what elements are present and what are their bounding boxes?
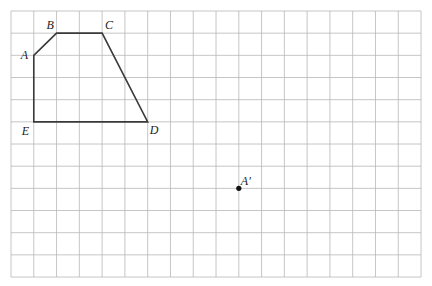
vertex-label-d: D <box>149 123 159 137</box>
grid-diagram: ABCDE A′ <box>0 0 432 286</box>
diagram-canvas: ABCDE A′ <box>0 0 432 286</box>
vertex-label-e: E <box>21 124 30 138</box>
vertex-label-a: A <box>20 48 29 62</box>
vertex-labels: ABCDE <box>20 18 159 138</box>
point-label-a-prime: A′ <box>240 174 251 188</box>
vertex-label-c: C <box>105 18 114 32</box>
vertex-label-b: B <box>47 18 55 32</box>
square-grid <box>11 11 421 277</box>
